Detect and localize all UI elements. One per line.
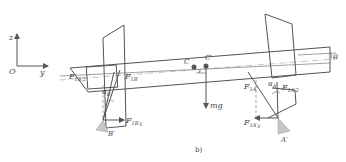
support-a-icon: [278, 118, 290, 134]
z-axis-label: z: [8, 33, 14, 42]
weight-label: mg: [210, 101, 223, 110]
y-axis-label: y: [39, 68, 45, 77]
force-b1-label: F1B′: [124, 72, 139, 82]
force-b2-label: F1B′2: [68, 72, 86, 82]
tilt-angle-label: θ: [333, 53, 338, 62]
origin-label: O: [9, 67, 16, 76]
free-body-diagram: z O y θ B′ F1B′2 F1B′ αB′ F1B′y C C′ y: [0, 0, 346, 162]
force-ay-label: F1A′y: [243, 118, 260, 129]
center-c-label: C: [184, 58, 190, 66]
figure-caption: b): [195, 146, 202, 154]
alpha-a-label: αA′: [268, 80, 278, 89]
center-c-prime-label: C′: [205, 54, 212, 62]
force-a2-label: F1A′2: [281, 83, 299, 93]
support-a-label: A′: [280, 136, 288, 144]
alpha-b-label: αB′: [102, 88, 112, 97]
offset-label: y: [197, 67, 201, 74]
coordinate-axes: z O y: [8, 33, 48, 77]
left-wheel: B′ F1B′2 F1B′ αB′ F1B′y: [68, 25, 143, 138]
support-b-label: B′: [107, 130, 115, 138]
force-by-label: F1B′y: [125, 116, 143, 127]
